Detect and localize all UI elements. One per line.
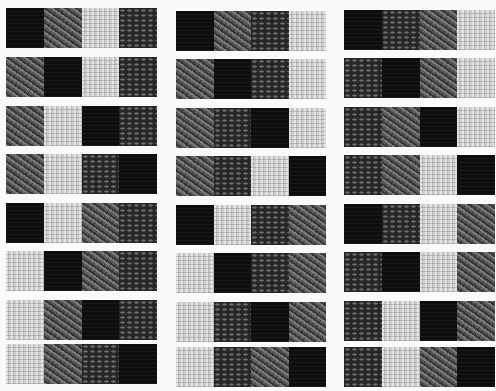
- dark-gray-oval-tile: [82, 344, 120, 384]
- texture-swatch: [176, 108, 326, 148]
- dark-gray-oval-tile: [344, 347, 382, 387]
- black-solid-tile: [176, 205, 214, 245]
- light-gray-plain-tile: [176, 253, 214, 293]
- black-solid-tile: [176, 11, 214, 51]
- light-gray-plain-tile: [82, 57, 120, 97]
- dark-gray-oval-tile: [214, 302, 252, 342]
- medium-gray-twill-tile: [457, 204, 495, 244]
- texture-swatch: [6, 154, 157, 194]
- light-gray-plain-tile: [44, 106, 82, 146]
- light-gray-plain-tile: [176, 347, 214, 387]
- texture-swatch: [344, 10, 495, 50]
- texture-swatch: [344, 252, 495, 292]
- black-solid-tile: [214, 253, 252, 293]
- dark-gray-oval-tile: [251, 59, 289, 99]
- texture-swatch: [6, 106, 157, 146]
- texture-swatch: [176, 347, 326, 387]
- dark-gray-oval-tile: [344, 301, 382, 341]
- dark-gray-oval-tile: [251, 11, 289, 51]
- medium-gray-twill-tile: [82, 251, 120, 291]
- medium-gray-twill-tile: [382, 155, 420, 195]
- texture-swatch: [344, 301, 495, 341]
- medium-gray-twill-tile: [457, 301, 495, 341]
- black-solid-tile: [457, 347, 495, 387]
- dark-gray-oval-tile: [119, 300, 157, 340]
- texture-swatch: [176, 11, 326, 51]
- medium-gray-twill-tile: [289, 205, 327, 245]
- dark-gray-oval-tile: [251, 253, 289, 293]
- light-gray-plain-tile: [289, 108, 327, 148]
- texture-swatch: [344, 58, 495, 98]
- black-solid-tile: [289, 347, 327, 387]
- light-gray-plain-tile: [457, 58, 495, 98]
- light-gray-plain-tile: [382, 347, 420, 387]
- dark-gray-oval-tile: [119, 251, 157, 291]
- texture-swatch: [176, 253, 326, 293]
- medium-gray-twill-tile: [44, 344, 82, 384]
- medium-gray-twill-tile: [289, 253, 327, 293]
- light-gray-plain-tile: [420, 204, 458, 244]
- black-solid-tile: [82, 300, 120, 340]
- dark-gray-oval-tile: [344, 58, 382, 98]
- light-gray-plain-tile: [6, 344, 44, 384]
- black-solid-tile: [420, 301, 458, 341]
- black-solid-tile: [457, 155, 495, 195]
- texture-swatch: [6, 251, 157, 291]
- black-solid-tile: [344, 10, 382, 50]
- texture-swatch: [176, 156, 326, 196]
- black-solid-tile: [44, 57, 82, 97]
- medium-gray-twill-tile: [289, 302, 327, 342]
- texture-swatch: [6, 8, 157, 48]
- black-solid-tile: [251, 108, 289, 148]
- texture-swatch: [6, 344, 157, 384]
- texture-swatch: [344, 347, 495, 387]
- black-solid-tile: [6, 203, 44, 243]
- dark-gray-oval-tile: [119, 106, 157, 146]
- black-solid-tile: [382, 252, 420, 292]
- light-gray-plain-tile: [289, 59, 327, 99]
- light-gray-plain-tile: [382, 301, 420, 341]
- medium-gray-twill-tile: [457, 252, 495, 292]
- black-solid-tile: [344, 204, 382, 244]
- medium-gray-twill-tile: [176, 156, 214, 196]
- black-solid-tile: [119, 154, 157, 194]
- texture-swatch: [176, 59, 326, 99]
- dark-gray-oval-tile: [344, 155, 382, 195]
- dark-gray-oval-tile: [251, 205, 289, 245]
- black-solid-tile: [44, 251, 82, 291]
- texture-swatch: [344, 204, 495, 244]
- medium-gray-twill-tile: [214, 11, 252, 51]
- light-gray-plain-tile: [420, 155, 458, 195]
- texture-swatch: [344, 155, 495, 195]
- light-gray-plain-tile: [44, 203, 82, 243]
- medium-gray-twill-tile: [6, 154, 44, 194]
- medium-gray-twill-tile: [382, 107, 420, 147]
- light-gray-plain-tile: [457, 10, 495, 50]
- dark-gray-oval-tile: [82, 154, 120, 194]
- medium-gray-twill-tile: [176, 108, 214, 148]
- black-solid-tile: [420, 107, 458, 147]
- dark-gray-oval-tile: [344, 107, 382, 147]
- medium-gray-twill-tile: [420, 347, 458, 387]
- medium-gray-twill-tile: [6, 57, 44, 97]
- medium-gray-twill-tile: [420, 10, 458, 50]
- dark-gray-oval-tile: [382, 10, 420, 50]
- texture-swatch-grid: [0, 0, 496, 391]
- light-gray-plain-tile: [214, 205, 252, 245]
- black-solid-tile: [251, 302, 289, 342]
- black-solid-tile: [6, 8, 44, 48]
- light-gray-plain-tile: [6, 251, 44, 291]
- black-solid-tile: [119, 344, 157, 384]
- medium-gray-twill-tile: [44, 8, 82, 48]
- dark-gray-oval-tile: [119, 203, 157, 243]
- black-solid-tile: [214, 59, 252, 99]
- black-solid-tile: [82, 106, 120, 146]
- medium-gray-twill-tile: [6, 106, 44, 146]
- texture-swatch: [344, 107, 495, 147]
- dark-gray-oval-tile: [119, 57, 157, 97]
- texture-swatch: [6, 203, 157, 243]
- texture-swatch: [6, 300, 157, 340]
- light-gray-plain-tile: [251, 156, 289, 196]
- black-solid-tile: [382, 58, 420, 98]
- light-gray-plain-tile: [289, 11, 327, 51]
